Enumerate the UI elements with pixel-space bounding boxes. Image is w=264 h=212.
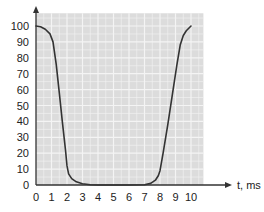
x-tick-label: 5 — [110, 191, 116, 203]
y-tick-label: 70 — [17, 68, 29, 80]
x-tick-label: 9 — [172, 191, 178, 203]
y-tick-label: 90 — [17, 36, 29, 48]
y-tick-label: 80 — [17, 52, 29, 64]
y-axis-ticks: 0102030405060708090100 — [11, 20, 29, 191]
x-tick-label: 3 — [79, 191, 85, 203]
x-tick-label: 2 — [64, 191, 70, 203]
x-axis-label: t, ms — [237, 179, 261, 191]
y-tick-label: 20 — [17, 147, 29, 159]
x-tick-label: 6 — [126, 191, 132, 203]
plot-background — [36, 13, 203, 185]
y-tick-label: 0 — [23, 179, 29, 191]
y-tick-label: 100 — [11, 20, 29, 32]
x-tick-label: 10 — [185, 191, 197, 203]
x-tick-label: 0 — [33, 191, 39, 203]
y-tick-label: 40 — [17, 115, 29, 127]
x-tick-label: 7 — [141, 191, 147, 203]
y-tick-label: 60 — [17, 84, 29, 96]
y-axis-arrow-icon — [33, 6, 39, 13]
y-tick-label: 10 — [17, 163, 29, 175]
x-tick-label: 8 — [157, 191, 163, 203]
x-axis-ticks: 012345678910 — [33, 191, 197, 203]
x-axis-arrow-icon — [225, 182, 232, 188]
y-tick-label: 50 — [17, 100, 29, 112]
chart: 012345678910 0102030405060708090100 t, m… — [0, 0, 264, 212]
x-tick-label: 4 — [95, 191, 101, 203]
x-tick-label: 1 — [48, 191, 54, 203]
y-tick-label: 30 — [17, 131, 29, 143]
